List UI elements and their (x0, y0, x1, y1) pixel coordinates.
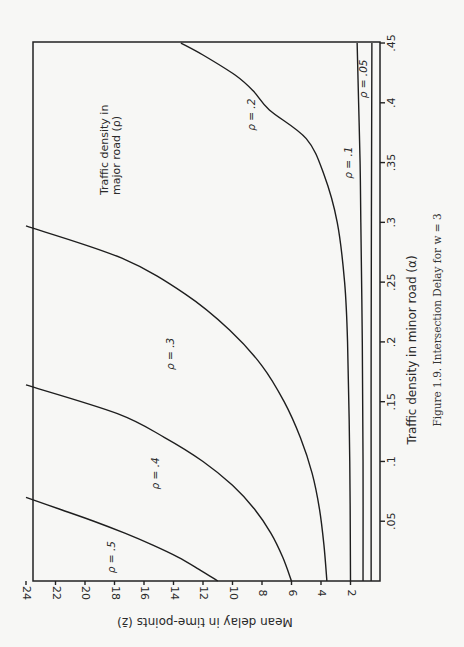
delay-tick-label: 10 (227, 586, 240, 600)
alpha-axis-ticks: .05.1.15.2.25.3.35.4.45 (380, 34, 398, 530)
delay-tick-label: 6 (286, 590, 299, 597)
curve-series-2 (26, 226, 327, 581)
legend-title-line2: major road (ρ) (110, 116, 123, 195)
series-labels: ρ = .5ρ = .4ρ = .3ρ = .2ρ = .1ρ = .05 (105, 59, 369, 573)
delay-tick-label: 16 (138, 586, 151, 600)
curve-series-3 (181, 43, 351, 581)
curve-series-0 (26, 497, 218, 581)
x-axis-label: Traffic density in minor road (α) (405, 255, 419, 445)
series-label-3: ρ = .2 (245, 98, 257, 130)
alpha-tick-label: .45 (385, 34, 398, 52)
y-axis-label: Mean delay in time-points (z̄) (117, 615, 293, 629)
delay-axis-ticks: 24681012141618202224 (20, 581, 358, 600)
series-label-5: ρ = .05 (357, 59, 369, 98)
series-label-4: ρ = .1 (342, 146, 354, 178)
alpha-tick-label: .25 (385, 273, 398, 291)
series-label-1: ρ = .4 (149, 457, 161, 489)
delay-tick-label: 24 (20, 586, 33, 600)
curve-series-5 (371, 43, 372, 581)
delay-tick-label: 14 (168, 586, 181, 600)
series-label-2: ρ = .3 (164, 338, 176, 370)
alpha-tick-label: .35 (385, 154, 398, 172)
alpha-tick-label: .15 (385, 393, 398, 411)
curve-series-4 (357, 43, 363, 581)
delay-tick-label: 18 (109, 586, 122, 600)
alpha-tick-label: .1 (385, 456, 398, 467)
curves-group (26, 43, 372, 581)
alpha-tick-label: .05 (385, 512, 398, 530)
plot-frame (33, 42, 380, 581)
delay-tick-label: 12 (197, 586, 210, 600)
delay-tick-label: 20 (79, 586, 92, 600)
delay-tick-label: 2 (345, 590, 358, 597)
delay-tick-label: 4 (315, 590, 328, 597)
alpha-tick-label: .2 (385, 337, 398, 348)
delay-tick-label: 8 (256, 590, 269, 597)
delay-tick-label: 22 (50, 586, 63, 600)
alpha-tick-label: .3 (385, 217, 398, 228)
rotated-line-chart: .05.1.15.2.25.3.35.4.45 2468101214161820… (0, 0, 464, 647)
figure-caption: Figure 1.9. Intersection Delay for w = 3 (431, 213, 443, 426)
alpha-tick-label: .4 (385, 98, 398, 109)
series-label-0: ρ = .5 (105, 541, 117, 573)
